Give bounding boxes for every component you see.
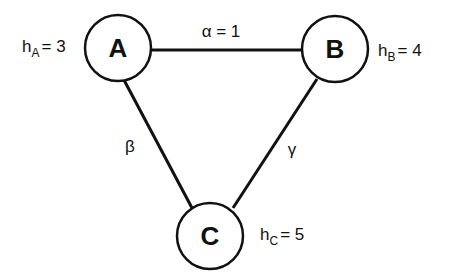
edge-label-beta: β xyxy=(125,137,135,156)
edge-label-gamma: γ xyxy=(288,140,297,159)
edge-b-c xyxy=(233,79,317,208)
heuristic-label-c: hC= 5 xyxy=(260,225,304,248)
heuristic-label-a: hA= 3 xyxy=(22,37,66,60)
heuristic-label-b: hB= 4 xyxy=(378,41,422,64)
node-c-label: C xyxy=(201,221,220,251)
node-b-label: B xyxy=(326,34,345,64)
node-a-label: A xyxy=(109,33,128,63)
node-b: B xyxy=(302,16,368,82)
edge-label-alpha: α = 1 xyxy=(202,22,241,41)
graph-diagram: α = 1 β γ A B C hA= 3 hB= 4 hC= 5 xyxy=(0,0,454,273)
node-c: C xyxy=(177,203,243,269)
node-a: A xyxy=(85,15,151,81)
